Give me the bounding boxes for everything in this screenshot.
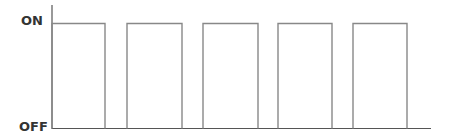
pulse-2 — [127, 24, 182, 129]
plot-area — [0, 0, 451, 139]
signal-pulses — [52, 24, 407, 129]
pulse-5 — [353, 24, 407, 129]
square-wave-chart: ON OFF — [0, 0, 451, 139]
pulse-3 — [203, 24, 258, 129]
pulse-4 — [278, 24, 332, 129]
pulse-1 — [52, 24, 105, 129]
